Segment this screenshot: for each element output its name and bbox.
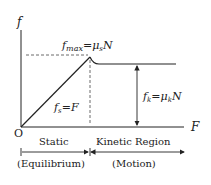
origin-label: O bbox=[14, 127, 23, 140]
transition-curve bbox=[90, 57, 99, 64]
static-region-label: Static bbox=[39, 136, 69, 147]
kinetic-region-label: Kinetic Region bbox=[96, 136, 171, 147]
equilibrium-label: (Equilibrium) bbox=[17, 158, 85, 169]
x-axis-label: F bbox=[190, 120, 200, 134]
fs-label: fs=F bbox=[53, 101, 79, 115]
fk-label: fk=μkN bbox=[142, 90, 182, 104]
friction-diagram: f F O fmax=μsN fs=F fk=μkN Static Kineti… bbox=[0, 0, 211, 185]
y-axis-label: f bbox=[16, 15, 24, 29]
diagram-svg: f F O fmax=μsN fs=F fk=μkN Static Kineti… bbox=[0, 0, 211, 185]
static-friction-line bbox=[21, 57, 90, 127]
motion-label: (Motion) bbox=[112, 158, 156, 169]
fmax-label: fmax=μsN bbox=[61, 39, 113, 53]
